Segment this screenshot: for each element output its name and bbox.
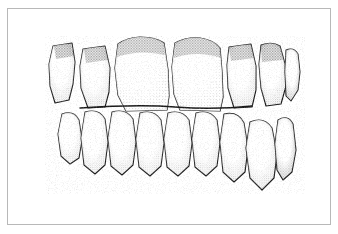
teeth-illustration: [0, 0, 338, 234]
dental-illustration-figure: anterior view of upper and lower dental …: [0, 0, 338, 234]
stipple-grain-overlay: [45, 36, 305, 194]
